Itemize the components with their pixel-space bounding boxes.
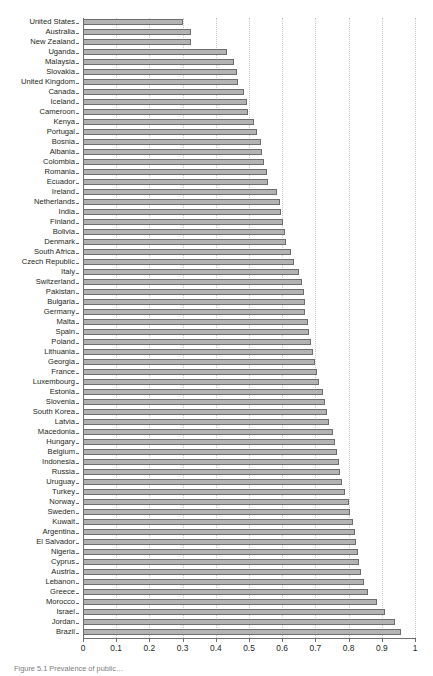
- bar-row: [83, 188, 415, 198]
- category-tick: [76, 353, 79, 354]
- bar: [83, 309, 305, 315]
- category-label: Turkey: [52, 487, 75, 497]
- category-tick: [76, 63, 79, 64]
- category-tick: [76, 323, 79, 324]
- bar-row: [83, 458, 415, 468]
- category-tick: [76, 373, 79, 374]
- bar: [83, 479, 342, 485]
- category-label: Greece: [50, 587, 75, 597]
- category-tick: [76, 163, 79, 164]
- category-label: Italy: [61, 267, 75, 277]
- category-label: Cameroon: [40, 107, 75, 117]
- bar: [83, 439, 335, 445]
- category-tick: [76, 493, 79, 494]
- bar-row: [83, 98, 415, 108]
- bar-row: [83, 198, 415, 208]
- category-tick: [76, 573, 79, 574]
- category-label: Malaysia: [45, 57, 75, 67]
- category-label: Pakistan: [46, 287, 75, 297]
- category-tick: [76, 43, 79, 44]
- category-tick: [76, 203, 79, 204]
- category-tick: [76, 473, 79, 474]
- category-axis-labels: United StatesAustraliaNew ZealandUgandaM…: [0, 18, 79, 638]
- bar-row: [83, 148, 415, 158]
- category-tick: [76, 213, 79, 214]
- bar-row: [83, 318, 415, 328]
- category-label: Spain: [56, 327, 75, 337]
- category-tick: [76, 273, 79, 274]
- x-tick-label: 0: [81, 643, 86, 653]
- category-label: El Salvador: [36, 537, 75, 547]
- category-label: Luxembourg: [33, 377, 75, 387]
- bar-row: [83, 578, 415, 588]
- bar-row: [83, 448, 415, 458]
- category-label: Russia: [52, 467, 75, 477]
- bar: [83, 449, 337, 455]
- x-tick-label: 0.6: [276, 643, 288, 653]
- category-label: Hungary: [46, 437, 75, 447]
- bar: [83, 559, 359, 565]
- bar-row: [83, 38, 415, 48]
- bar-row: [83, 618, 415, 628]
- bar: [83, 539, 356, 545]
- category-tick: [76, 143, 79, 144]
- x-tick: [149, 638, 150, 642]
- bar: [83, 159, 264, 165]
- category-tick: [76, 533, 79, 534]
- bar: [83, 109, 248, 115]
- bar: [83, 189, 277, 195]
- x-tick: [315, 638, 316, 642]
- bar: [83, 299, 305, 305]
- bar-row: [83, 168, 415, 178]
- bar-row: [83, 338, 415, 348]
- category-label: Jordan: [52, 617, 75, 627]
- bar: [83, 219, 283, 225]
- category-label: Switzerland: [36, 277, 75, 287]
- category-tick: [76, 303, 79, 304]
- category-tick: [76, 153, 79, 154]
- bar-row: [83, 408, 415, 418]
- category-tick: [76, 233, 79, 234]
- category-tick: [76, 453, 79, 454]
- category-label: Bolivia: [53, 227, 75, 237]
- bar-row: [83, 28, 415, 38]
- category-label: Sweden: [48, 507, 75, 517]
- category-label: United Kingdom: [21, 77, 75, 87]
- bar: [83, 129, 257, 135]
- category-label: Czech Republic: [22, 257, 75, 267]
- category-label: Georgia: [48, 357, 75, 367]
- bar: [83, 69, 237, 75]
- category-label: Brazil: [56, 627, 75, 637]
- bar-row: [83, 228, 415, 238]
- category-tick: [76, 253, 79, 254]
- category-label: Lebanon: [45, 577, 75, 587]
- bar-row: [83, 258, 415, 268]
- bar: [83, 279, 302, 285]
- category-label: Slovakia: [46, 67, 75, 77]
- bar-row: [83, 278, 415, 288]
- bar: [83, 79, 238, 85]
- x-tick-label: 0.8: [343, 643, 355, 653]
- x-tick-label: 0.1: [110, 643, 122, 653]
- bar-row: [83, 208, 415, 218]
- bar: [83, 139, 261, 145]
- category-label: Nigeria: [51, 547, 75, 557]
- category-label: Austria: [51, 567, 75, 577]
- bar: [83, 29, 191, 35]
- bar-row: [83, 328, 415, 338]
- category-label: Ecuador: [47, 177, 75, 187]
- category-tick: [76, 93, 79, 94]
- category-label: Malta: [56, 317, 75, 327]
- bar: [83, 229, 285, 235]
- bar-row: [83, 568, 415, 578]
- category-tick: [76, 193, 79, 194]
- bar-row: [83, 108, 415, 118]
- bar: [83, 459, 339, 465]
- category-tick: [76, 593, 79, 594]
- bar: [83, 49, 227, 55]
- category-tick: [76, 133, 79, 134]
- bar-row: [83, 488, 415, 498]
- bar-row: [83, 548, 415, 558]
- category-label: United States: [29, 17, 75, 27]
- category-tick: [76, 83, 79, 84]
